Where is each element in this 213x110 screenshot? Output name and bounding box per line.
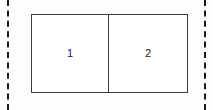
- two-cell-table-figure: 1 2: [31, 14, 188, 93]
- right-margin-guide-dashed-line: [204, 0, 206, 110]
- screenshot-canvas: 1 2: [0, 0, 213, 110]
- left-margin-guide-dashed-line: [7, 0, 9, 110]
- table-cell-2[interactable]: 2: [109, 15, 187, 92]
- table-cell-1-label: 1: [67, 48, 73, 59]
- table-cell-1[interactable]: 1: [32, 15, 109, 92]
- table-cell-2-label: 2: [145, 48, 151, 59]
